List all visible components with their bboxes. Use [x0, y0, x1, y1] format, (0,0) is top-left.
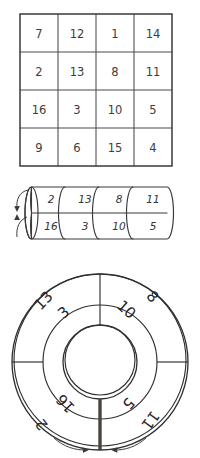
grid-cell: 1 [111, 27, 118, 41]
cylinder-top-cell: 11 [146, 193, 159, 205]
cylinder-top-cell: 13 [78, 193, 91, 205]
grid-cell: 3 [73, 103, 80, 117]
grid-cell: 16 [32, 103, 47, 117]
torus-diagram: 13 8 11 2 3 10 5 16 [12, 274, 188, 453]
grid-cell: 5 [149, 103, 156, 117]
cap-arrow-up-icon [14, 214, 27, 237]
cylinder-bottom-cell: 5 [150, 220, 157, 232]
cylinder-top-cell: 2 [48, 193, 55, 205]
grid-cell: 9 [35, 141, 42, 155]
cylinder-cap-top [31, 187, 32, 213]
cylinder-bottom-cell: 16 [44, 220, 58, 232]
grid-cell: 15 [108, 141, 123, 155]
grid-cell: 2 [35, 65, 42, 79]
grid-cell: 14 [146, 27, 161, 41]
grid-cell: 10 [108, 103, 123, 117]
grid-cell: 7 [35, 27, 42, 41]
grid-cell: 12 [70, 27, 85, 41]
grid-cell: 4 [149, 141, 156, 155]
cylinder-top-cell: 8 [116, 193, 123, 205]
cylinder-diagram: 2 13 8 11 16 3 10 5 [14, 187, 173, 239]
figure-root: 7 12 1 14 2 13 8 11 16 3 10 5 9 6 15 4 [0, 0, 200, 458]
cylinder-cap-bottom [31, 213, 32, 239]
cylinder-bottom-cell: 10 [112, 220, 126, 232]
grid-cell: 8 [111, 65, 118, 79]
grid-cell: 11 [146, 65, 161, 79]
magic-square-grid: 7 12 1 14 2 13 8 11 16 3 10 5 9 6 15 4 [20, 14, 172, 166]
grid-cell: 6 [73, 141, 80, 155]
grid-cell: 13 [70, 65, 85, 79]
cylinder-bottom-cell: 3 [82, 220, 89, 232]
